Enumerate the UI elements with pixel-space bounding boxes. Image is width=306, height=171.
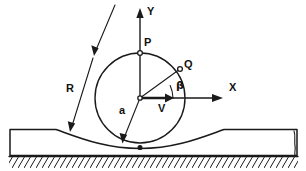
oq-radius-line: [140, 69, 180, 98]
point-q-label: Q: [184, 59, 193, 70]
x-axis-label: X: [229, 82, 236, 93]
contact-point-marker: [138, 146, 142, 150]
radius-to-q: [140, 69, 180, 98]
velocity-v-label: V: [158, 103, 165, 114]
point-p-marker: [138, 51, 143, 56]
origin-marker: [138, 96, 142, 100]
y-axis-label: Y: [147, 6, 154, 17]
beta-angle-label: β: [176, 80, 184, 91]
r-lower-line: [72, 58, 93, 126]
point-q-marker: [178, 67, 183, 72]
y-axis-arrowhead-icon: [136, 8, 143, 18]
rolling-contact-figure: Y X P Q R a β V: [0, 0, 306, 171]
radius-leader-r: [68, 5, 115, 132]
a-line: [124, 98, 140, 138]
r-upper-line: [96, 5, 115, 50]
ground-support: [9, 157, 298, 169]
r-lower-arrowhead-icon: [68, 121, 75, 132]
beta-arc: [170, 86, 173, 99]
deformed-plate: [10, 130, 297, 156]
x-axis-arrowhead-icon: [212, 94, 223, 102]
beta-angle: [170, 86, 173, 99]
diagram-canvas: [0, 0, 306, 171]
contact-a-label: a: [119, 105, 125, 116]
ground-hatching: [9, 157, 298, 168]
plate-outline: [10, 130, 297, 156]
point-p-label: P: [144, 37, 151, 48]
radius-r-label: R: [66, 83, 74, 94]
